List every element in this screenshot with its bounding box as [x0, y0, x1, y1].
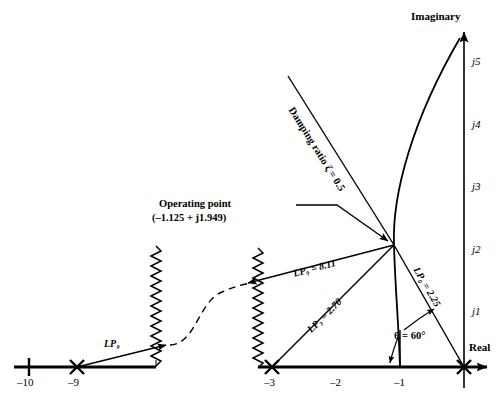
imag-tick-j2: j2 — [472, 243, 481, 255]
imag-tick-j3: j3 — [472, 180, 481, 192]
real-axis-label: Real — [469, 341, 490, 353]
axis-break-zigzag-right — [253, 248, 263, 368]
operating-point-title: Operating point — [159, 198, 231, 209]
vector-lp0 — [394, 245, 464, 367]
theta-leader-upper — [404, 309, 434, 330]
vector-lp9-plain-label: LP₉ — [104, 338, 120, 349]
panel-break-connector — [170, 283, 252, 345]
right-real-axis-group — [258, 360, 487, 374]
imaginary-axis-label: Imaginary — [411, 10, 461, 22]
figure-canvas — [0, 0, 504, 402]
root-locus-figure: Imaginary Real j5 j4 j3 j2 j1 –10 –9 –3 … — [0, 0, 504, 402]
real-tick-minus1: –1 — [394, 376, 405, 388]
real-tick-minus10: –10 — [17, 376, 34, 388]
operating-point-value: (–1.125 + j1.949) — [152, 212, 226, 223]
real-tick-minus9: –9 — [68, 376, 79, 388]
imag-tick-j5: j5 — [472, 55, 481, 67]
left-real-axis-group — [14, 345, 166, 376]
root-locus-branch — [394, 38, 460, 367]
imag-tick-j4: j4 — [472, 118, 481, 130]
theta-angle-label: θ = 60° — [394, 330, 425, 341]
real-tick-minus2: –2 — [330, 376, 341, 388]
imag-tick-j1: j1 — [472, 305, 481, 317]
operating-point-leader — [296, 205, 388, 241]
real-tick-minus3: –3 — [264, 376, 275, 388]
damping-ratio-line — [288, 76, 394, 245]
